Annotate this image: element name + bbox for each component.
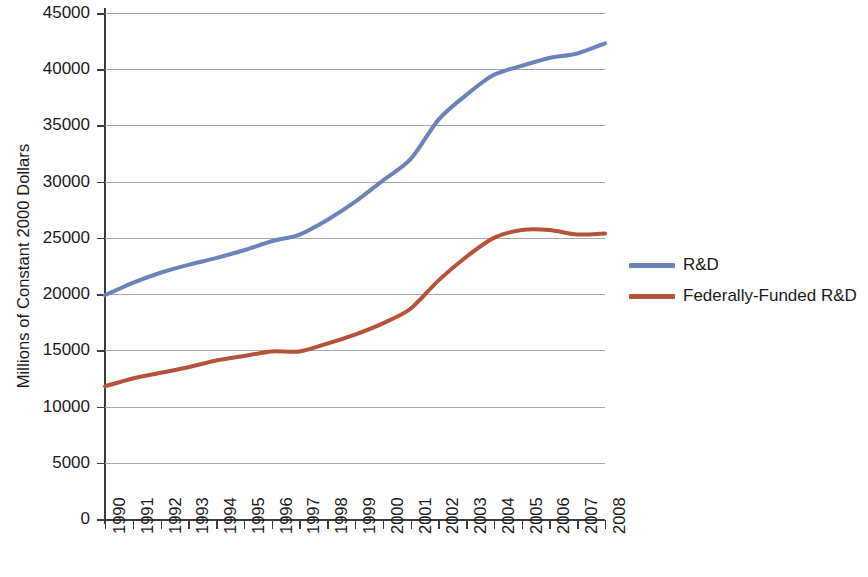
- legend-entry: R&D: [629, 256, 857, 274]
- series-lines: [105, 13, 605, 519]
- x-axis-tick-mark: [522, 520, 523, 529]
- legend-label: Federally-Funded R&D: [683, 287, 857, 305]
- y-axis-tick-label: 40000: [6, 60, 90, 77]
- x-axis-tick-mark: [466, 520, 467, 529]
- y-axis-tick-label: 30000: [6, 173, 90, 190]
- x-axis-tick-mark: [438, 520, 439, 529]
- x-axis-tick-mark: [105, 520, 106, 529]
- x-axis-tick-mark: [299, 520, 300, 529]
- series-line: [105, 229, 605, 386]
- x-axis-tick-mark: [577, 520, 578, 529]
- x-axis-tick-mark: [605, 520, 606, 529]
- x-axis-tick-mark: [494, 520, 495, 529]
- x-axis-tick-mark: [327, 520, 328, 529]
- y-axis-tick-label: 0: [6, 510, 90, 527]
- x-axis-tick-mark: [383, 520, 384, 529]
- y-axis-tick-label: 20000: [6, 285, 90, 302]
- x-axis-tick-mark: [161, 520, 162, 529]
- x-axis-tick-mark: [411, 520, 412, 529]
- x-axis-tick-mark: [355, 520, 356, 529]
- y-axis-tick-label: 5000: [6, 454, 90, 471]
- y-axis-title: Millions of Constant 2000 Dollars: [10, 13, 36, 519]
- plot-area: [105, 13, 605, 519]
- x-axis-tick-mark: [216, 520, 217, 529]
- legend-label: R&D: [683, 256, 719, 274]
- legend-color-swatch: [629, 263, 675, 268]
- x-axis-tick-mark: [244, 520, 245, 529]
- x-axis-tick-mark: [272, 520, 273, 529]
- line-chart: Millions of Constant 2000 Dollars 050001…: [0, 0, 868, 577]
- y-axis-tick-label: 45000: [6, 4, 90, 21]
- x-axis-tick-mark: [188, 520, 189, 529]
- legend-color-swatch: [629, 294, 675, 299]
- x-axis-tick-mark: [133, 520, 134, 529]
- series-line: [105, 43, 605, 295]
- y-axis-tick-label: 25000: [6, 229, 90, 246]
- chart-legend: R&DFederally-Funded R&D: [629, 256, 857, 305]
- x-axis-tick-mark: [549, 520, 550, 529]
- y-axis-tick-label: 10000: [6, 398, 90, 415]
- legend-entry: Federally-Funded R&D: [629, 287, 857, 305]
- y-axis-tick-label: 15000: [6, 341, 90, 358]
- y-axis-tick-label: 35000: [6, 116, 90, 133]
